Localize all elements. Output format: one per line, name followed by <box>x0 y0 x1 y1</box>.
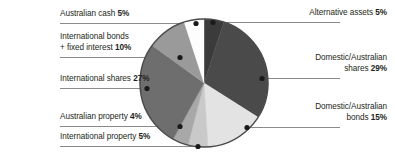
label-australian-cash-value: 5% <box>117 9 129 18</box>
label-international-bonds-line2: + fixed interest <box>60 43 115 52</box>
label-domestic-shares-value: 29% <box>371 64 387 73</box>
dot-domestic-bonds <box>244 125 249 130</box>
label-domestic-shares: Domestic/Australian shares 29% <box>207 53 387 74</box>
label-international-property-value: 5% <box>139 132 151 141</box>
pie-chart-figure: Australian cash 5% International bonds +… <box>0 0 395 166</box>
label-alternative-assets-value: 5% <box>375 8 387 17</box>
label-international-shares-value: 27% <box>133 74 149 83</box>
dot-international-bonds <box>177 55 182 60</box>
label-alternative-assets-text: Alternative assets <box>309 8 375 17</box>
dot-australian-cash <box>193 21 198 26</box>
label-australian-property: Australian property 4% <box>60 112 142 123</box>
dot-australian-property <box>177 124 182 129</box>
dot-alternative-assets <box>210 20 215 25</box>
label-domestic-bonds-value: 15% <box>371 113 387 122</box>
label-international-shares: International shares 27% <box>60 74 149 85</box>
label-domestic-bonds-line1: Domestic/Australian <box>315 102 387 111</box>
label-australian-property-value: 4% <box>130 112 142 121</box>
dot-domestic-shares <box>259 76 264 81</box>
label-alternative-assets: Alternative assets 5% <box>207 8 387 19</box>
label-australian-cash: Australian cash 5% <box>60 9 129 20</box>
label-domestic-shares-line1: Domestic/Australian <box>315 53 387 62</box>
dot-international-property <box>195 144 200 149</box>
label-domestic-bonds-line2: bonds <box>346 113 370 122</box>
dot-international-shares <box>144 86 149 91</box>
label-international-bonds-line1: International bonds <box>60 32 129 41</box>
label-domestic-bonds: Domestic/Australian bonds 15% <box>207 102 387 123</box>
label-australian-property-text: Australian property <box>60 112 130 121</box>
label-australian-cash-text: Australian cash <box>60 9 117 18</box>
label-international-bonds-value: 10% <box>115 43 131 52</box>
label-international-bonds: International bonds + fixed interest 10% <box>60 32 131 53</box>
label-domestic-shares-line2: shares <box>344 64 371 73</box>
label-international-property: International property 5% <box>60 132 150 143</box>
label-international-property-text: International property <box>60 132 139 141</box>
label-international-shares-text: International shares <box>60 74 133 83</box>
